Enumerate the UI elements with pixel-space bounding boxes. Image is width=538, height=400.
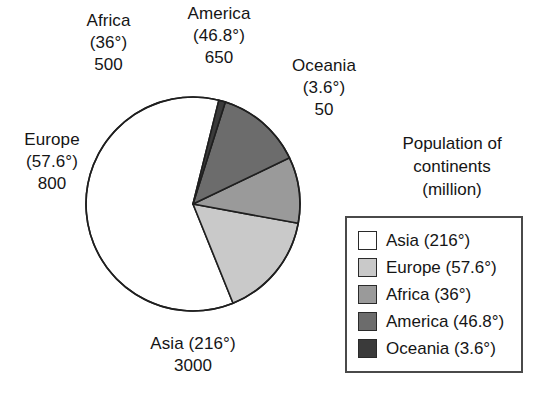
pie-label-oceania-angle: (3.6°) xyxy=(271,77,377,99)
legend-swatch-africa xyxy=(358,285,377,304)
legend-box: Asia (216°)Europe (57.6°)Africa (36°)Ame… xyxy=(345,216,523,373)
pie-label-africa-name: Africa xyxy=(61,10,156,32)
pie-label-europe-value: 800 xyxy=(2,173,102,195)
pie-label-africa-value: 500 xyxy=(61,54,156,76)
legend-title: Population of continents (million) xyxy=(372,133,532,202)
legend-title-line-3: (million) xyxy=(372,179,532,202)
pie-label-europe-angle: (57.6°) xyxy=(2,151,102,173)
legend-label-america: America (46.8°) xyxy=(386,313,504,330)
legend-item-africa[interactable]: Africa (36°) xyxy=(358,281,521,308)
legend-swatch-america xyxy=(358,312,377,331)
legend-title-line-2: continents xyxy=(372,156,532,179)
legend-swatch-europe xyxy=(358,258,377,277)
pie-label-asia: Asia (216°) 3000 xyxy=(118,333,268,377)
legend-item-oceania[interactable]: Oceania (3.6°) xyxy=(358,335,521,362)
pie-label-europe: Europe (57.6°) 800 xyxy=(2,129,102,194)
pie-label-america: America (46.8°) 650 xyxy=(164,3,274,68)
legend-label-asia: Asia (216°) xyxy=(386,232,470,249)
legend-swatch-asia xyxy=(358,231,377,250)
legend-item-asia[interactable]: Asia (216°) xyxy=(358,227,521,254)
pie-label-asia-name: Asia (216°) xyxy=(118,333,268,355)
pie-label-europe-name: Europe xyxy=(2,129,102,151)
pie-chart-figure: Africa (36°) 500 America (46.8°) 650 Oce… xyxy=(0,0,538,400)
pie-label-america-value: 650 xyxy=(164,47,274,69)
legend-label-europe: Europe (57.6°) xyxy=(386,259,497,276)
pie-label-america-angle: (46.8°) xyxy=(164,25,274,47)
pie-label-africa-angle: (36°) xyxy=(61,32,156,54)
legend-label-oceania: Oceania (3.6°) xyxy=(386,340,496,357)
legend-swatch-oceania xyxy=(358,339,377,358)
legend-label-africa: Africa (36°) xyxy=(386,286,471,303)
pie-label-oceania-value: 50 xyxy=(271,99,377,121)
legend-title-line-1: Population of xyxy=(372,133,532,156)
pie-label-oceania-name: Oceania xyxy=(271,55,377,77)
pie-label-oceania: Oceania (3.6°) 50 xyxy=(271,55,377,120)
pie-label-asia-value: 3000 xyxy=(118,355,268,377)
legend-item-europe[interactable]: Europe (57.6°) xyxy=(358,254,521,281)
pie-label-africa: Africa (36°) 500 xyxy=(61,10,156,75)
legend-item-america[interactable]: America (46.8°) xyxy=(358,308,521,335)
pie-label-america-name: America xyxy=(164,3,274,25)
